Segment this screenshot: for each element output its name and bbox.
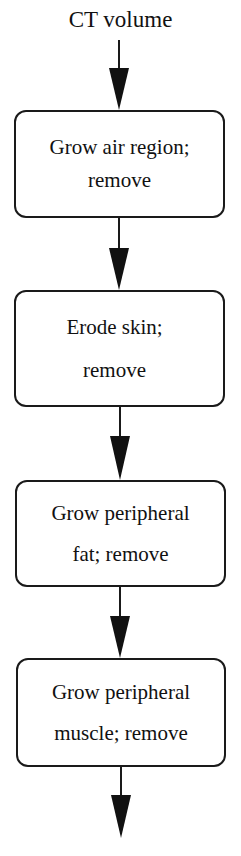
step-line-2: fat; remove <box>17 542 224 567</box>
arrow-5 <box>111 767 131 838</box>
arrow-1 <box>109 40 129 110</box>
step-line-1: Grow peripheral <box>17 501 224 526</box>
step-line-2: remove <box>16 168 223 193</box>
step-grow-peripheral-fat: Grow peripheral fat; remove <box>15 480 226 587</box>
arrow-2 <box>109 218 129 290</box>
step-line-1: Grow air region; <box>16 135 223 160</box>
step-line-1: Erode skin; <box>6 315 223 340</box>
arrow-3 <box>110 407 130 480</box>
step-line-1: Grow peripheral <box>18 680 224 705</box>
step-grow-peripheral-muscle: Grow peripheral muscle; remove <box>16 658 226 767</box>
step-line-2: remove <box>6 358 223 383</box>
step-erode-skin: Erode skin; remove <box>14 290 225 407</box>
arrow-4 <box>110 587 130 658</box>
step-line-2: muscle; remove <box>18 721 224 746</box>
step-grow-air-region: Grow air region; remove <box>14 110 225 218</box>
